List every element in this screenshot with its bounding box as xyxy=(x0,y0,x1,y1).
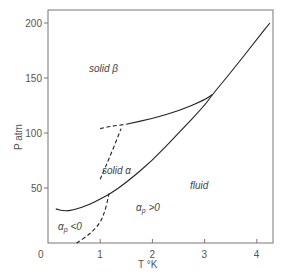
curves xyxy=(56,23,270,243)
phase-diagram: 0123450100150200 T °K P atm solid β soli… xyxy=(0,0,282,275)
x-axis-label: T °K xyxy=(138,259,158,270)
label-solid-alpha: solid α xyxy=(102,165,131,176)
x-tick-label: 0 xyxy=(38,249,44,260)
x-tick-label: 4 xyxy=(254,249,260,260)
label-alpha-negative: αp <0 xyxy=(58,221,82,234)
phase-boundary-curve xyxy=(56,23,270,211)
y-tick-label: 200 xyxy=(25,18,42,29)
y-tick-label: 150 xyxy=(25,73,42,84)
plot-frame xyxy=(48,10,273,243)
x-tick-label: 3 xyxy=(202,249,208,260)
y-tick-label: 100 xyxy=(25,128,42,139)
label-solid-beta: solid β xyxy=(89,63,118,74)
label-alpha-positive: αp >0 xyxy=(136,202,160,215)
region-labels: T °K P atm solid β solid α fluid αp >0 α… xyxy=(13,63,209,270)
phase-boundary-curve xyxy=(77,194,109,244)
y-axis-label: P atm xyxy=(13,124,24,150)
phase-boundary-curve xyxy=(126,95,212,125)
label-fluid: fluid xyxy=(190,180,209,191)
plot-box xyxy=(48,10,273,243)
y-tick-label: 50 xyxy=(31,183,43,194)
phase-boundary-curve xyxy=(100,124,126,128)
x-tick-label: 1 xyxy=(97,249,103,260)
